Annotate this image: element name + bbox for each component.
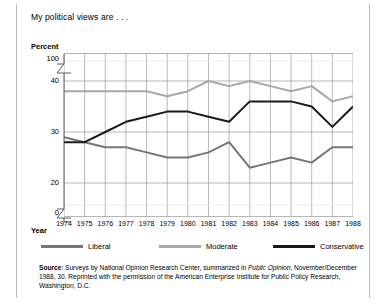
x-tick-label: 1988 [338, 220, 368, 227]
x-axis-tick-labels: 1974197519761977197819791980198119821983… [48, 220, 368, 230]
source-text-part1: : Surveys by National Opinion Research C… [61, 264, 248, 271]
legend-swatch-liberal [41, 245, 83, 248]
legend-label: Liberal [88, 242, 111, 251]
chart-legend: LiberalModerateConservative [41, 242, 371, 254]
legend-swatch-conservative [273, 245, 315, 248]
legend-label: Conservative [320, 242, 364, 251]
gridlines [64, 53, 353, 217]
line-chart-svg [64, 53, 353, 217]
legend-swatch-moderate [159, 245, 201, 248]
legend-label: Moderate [206, 242, 238, 251]
source-italic-title: Public Opinion [248, 264, 291, 271]
figure-container: My political views are . . . Percent 100… [16, 4, 370, 298]
axis-break-zigzag [57, 64, 71, 73]
legend-item-liberal[interactable]: Liberal [41, 242, 111, 251]
source-note: Source: Surveys by National Opinion Rese… [39, 263, 369, 291]
chart-plot-area [64, 53, 353, 217]
y-axis-break-marks [55, 50, 73, 230]
legend-item-moderate[interactable]: Moderate [159, 242, 238, 251]
axis-break-zigzag [57, 209, 71, 218]
source-label: Source [39, 264, 61, 271]
x-axis-title: Year [31, 226, 47, 235]
chart-question: My political views are . . . [31, 12, 128, 22]
legend-item-conservative[interactable]: Conservative [273, 242, 364, 251]
